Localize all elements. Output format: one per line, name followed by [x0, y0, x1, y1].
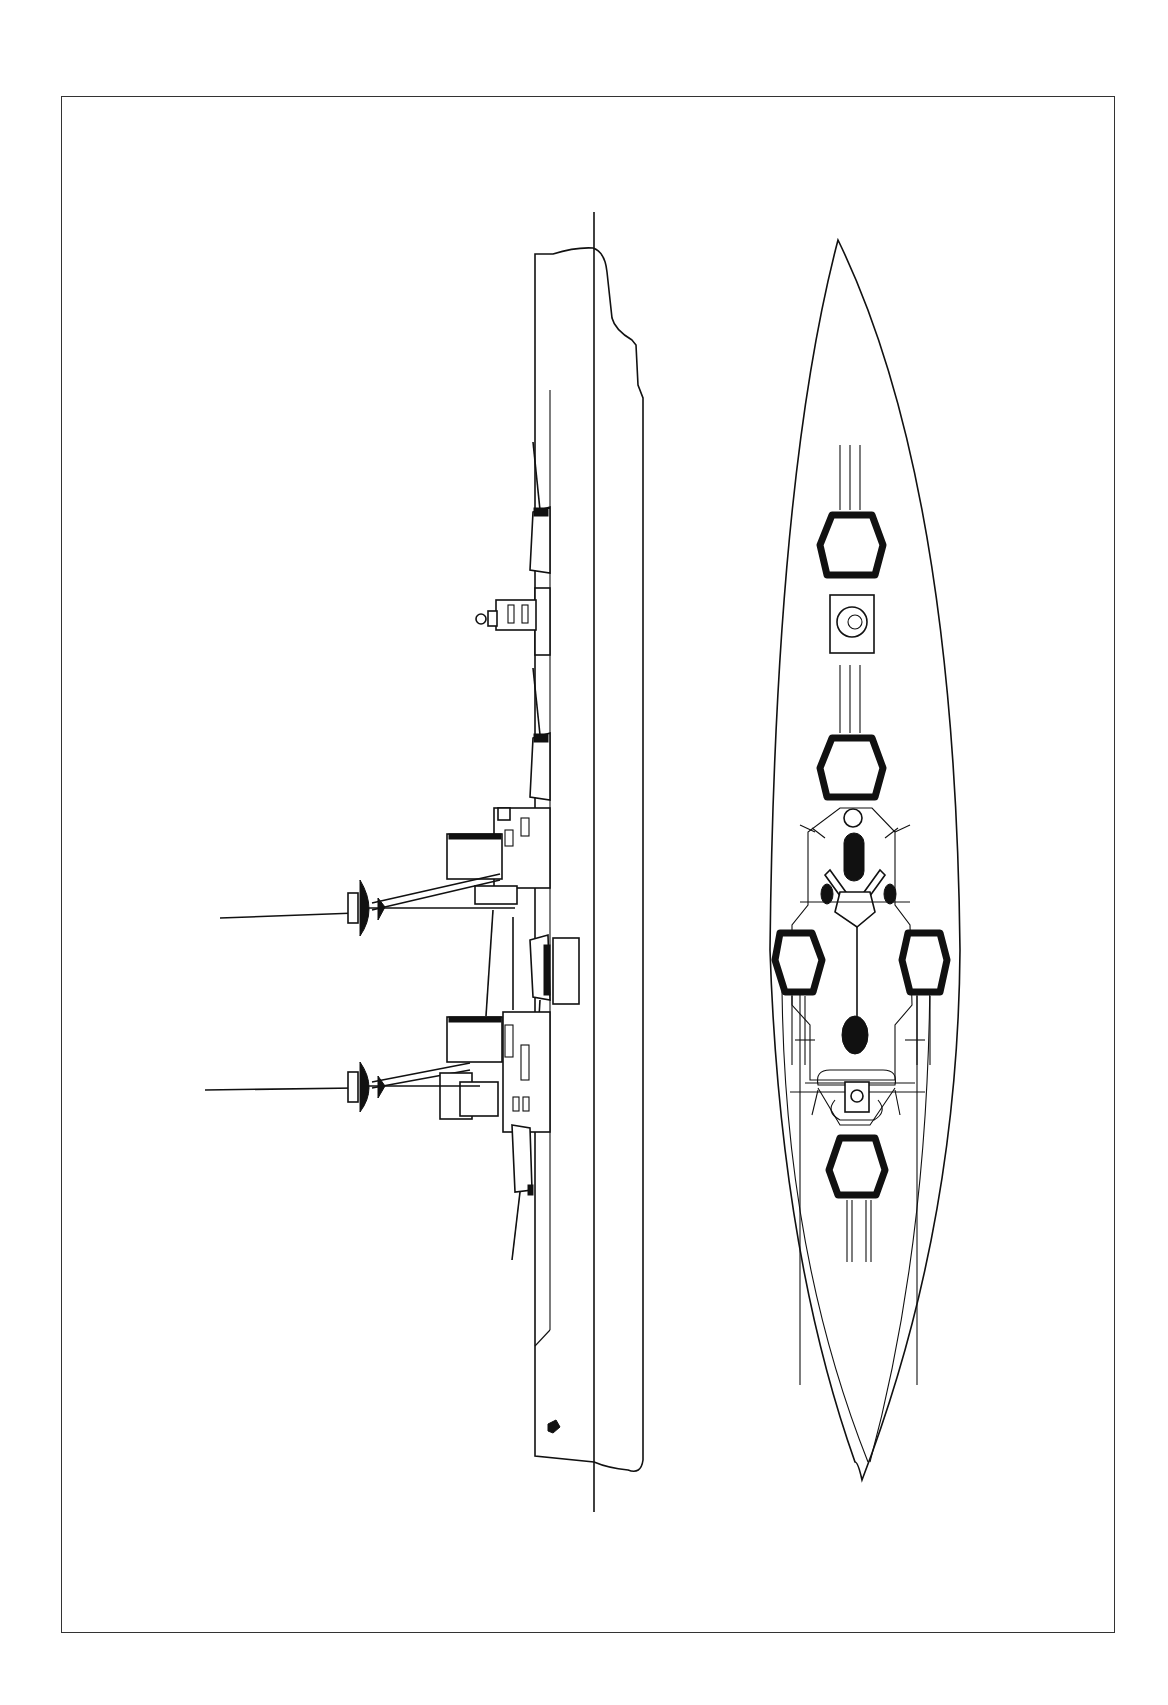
funnel-1-plan — [844, 833, 864, 881]
funnel-2-plan — [842, 1016, 868, 1054]
plan-turret-port — [775, 933, 822, 992]
turret-aft-profile — [512, 1125, 532, 1192]
plan-turret-aft — [829, 1138, 885, 1195]
ship-drawing — [0, 0, 1168, 1705]
mast-1-top — [360, 880, 369, 936]
mast-1-topmast — [220, 913, 356, 918]
plan-view — [770, 240, 960, 1480]
plan-turret-a — [820, 515, 883, 575]
profile-view — [205, 212, 643, 1512]
stern-mark — [548, 1420, 560, 1433]
plan-turret-starboard — [902, 933, 947, 992]
funnel-2 — [447, 1017, 502, 1062]
plan-hull — [770, 240, 960, 1480]
mast-2-topmast — [205, 1088, 356, 1090]
turret-a-profile — [530, 507, 550, 573]
funnel-1 — [447, 834, 502, 879]
profile-hull — [535, 248, 643, 1471]
plan-turret-b — [820, 738, 883, 797]
turret-b-profile — [530, 733, 550, 800]
mast-2-top — [360, 1062, 369, 1112]
